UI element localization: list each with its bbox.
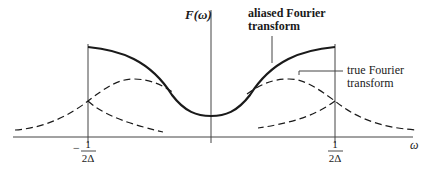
left-tick-sign: − <box>73 141 80 155</box>
left-tick-numerator: 1 <box>85 138 91 150</box>
true-transform-curve-left <box>15 79 175 130</box>
omega-axis-label: ω <box>410 138 418 152</box>
true-transform-curve-right-tail <box>258 101 335 128</box>
aliasing-diagram: F(ω) aliased Fourier transform true Four… <box>0 0 435 169</box>
true-label-line1: true Fourier <box>347 63 404 77</box>
f-axis-label: F(ω) <box>184 7 212 22</box>
true-leader-line <box>299 71 343 75</box>
true-label-line2: transform <box>347 76 394 90</box>
aliased-label-line1: aliased Fourier <box>248 6 326 20</box>
aliased-label-line2: transform <box>248 19 300 33</box>
left-tick-denominator: 2Δ <box>82 152 95 164</box>
right-tick-denominator: 2Δ <box>329 152 342 164</box>
right-tick-numerator: 1 <box>332 138 338 150</box>
true-transform-curve-left-tail <box>88 101 163 132</box>
